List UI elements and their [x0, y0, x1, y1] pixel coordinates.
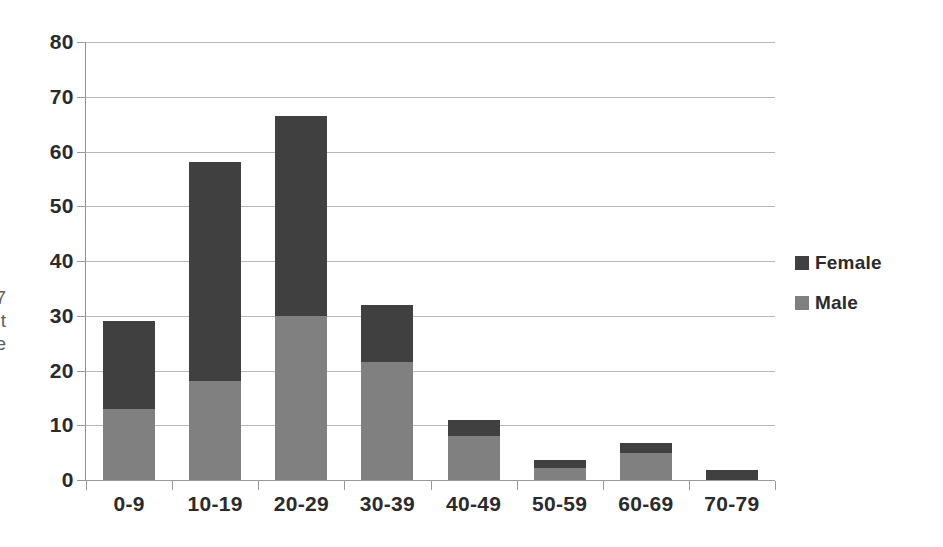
x-tick-label-20-29: 20-29 — [253, 492, 349, 516]
y-axis-tick-labels: 80706050403020100 — [0, 42, 74, 481]
y-tick-label-20: 20 — [14, 359, 74, 383]
bar-segment-male-10-19[interactable] — [189, 381, 241, 480]
y-tick-label-80: 80 — [14, 30, 74, 54]
chart-legend: FemaleMale — [795, 243, 935, 323]
legend-label-male: Male — [815, 292, 858, 314]
y-tick-label-0: 0 — [14, 468, 74, 492]
bar-segment-female-20-29[interactable] — [275, 116, 327, 316]
y-tick-mark-20 — [77, 371, 86, 372]
plot-area — [86, 42, 775, 480]
y-tick-mark-70 — [77, 97, 86, 98]
y-tick-mark-30 — [77, 316, 86, 317]
x-tick-label-0-9: 0-9 — [81, 492, 177, 516]
x-tick-mark-1 — [172, 481, 173, 490]
legend-item-male[interactable]: Male — [795, 283, 935, 323]
x-tick-mark-2 — [258, 481, 259, 490]
y-tick-label-70: 70 — [14, 85, 74, 109]
y-tick-mark-0 — [77, 480, 86, 481]
x-tick-label-70-79: 70-79 — [684, 492, 780, 516]
y-tick-mark-40 — [77, 261, 86, 262]
legend-item-female[interactable]: Female — [795, 243, 935, 283]
y-tick-label-30: 30 — [14, 304, 74, 328]
bar-segment-female-70-79[interactable] — [706, 470, 758, 480]
y-tick-label-40: 40 — [14, 249, 74, 273]
legend-swatch-male — [795, 296, 809, 310]
bar-segment-male-20-29[interactable] — [275, 316, 327, 480]
bar-segment-female-60-69[interactable] — [620, 443, 672, 452]
x-tick-label-60-69: 60-69 — [598, 492, 694, 516]
gridline-60 — [86, 152, 775, 153]
legend-swatch-female — [795, 256, 809, 270]
y-tick-mark-10 — [77, 425, 86, 426]
y-tick-mark-60 — [77, 152, 86, 153]
gridline-80 — [86, 42, 775, 43]
y-tick-mark-80 — [77, 42, 86, 43]
bar-segment-male-30-39[interactable] — [361, 362, 413, 480]
y-tick-label-60: 60 — [14, 140, 74, 164]
bar-segment-female-0-9[interactable] — [103, 321, 155, 409]
y-tick-label-50: 50 — [14, 194, 74, 218]
x-tick-mark-5 — [517, 481, 518, 490]
bar-segment-female-40-49[interactable] — [448, 420, 500, 436]
x-tick-label-30-39: 30-39 — [339, 492, 435, 516]
x-tick-mark-7 — [689, 481, 690, 490]
x-tick-mark-4 — [431, 481, 432, 490]
x-tick-mark-3 — [344, 481, 345, 490]
bar-segment-male-60-69[interactable] — [620, 453, 672, 480]
x-tick-mark-0 — [86, 481, 87, 490]
y-tick-label-10: 10 — [14, 413, 74, 437]
legend-label-female: Female — [815, 252, 882, 274]
x-tick-label-50-59: 50-59 — [512, 492, 608, 516]
chart-figure: 7 t e 80706050403020100 0-910-1920-2930-… — [0, 0, 943, 547]
x-tick-mark-8 — [775, 481, 776, 490]
bar-segment-male-0-9[interactable] — [103, 409, 155, 480]
x-tick-mark-6 — [603, 481, 604, 490]
x-tick-label-10-19: 10-19 — [167, 492, 263, 516]
x-tick-label-40-49: 40-49 — [426, 492, 522, 516]
x-axis-tick-labels: 0-910-1920-2930-3940-4950-5960-6970-79 — [86, 492, 775, 532]
y-tick-mark-50 — [77, 206, 86, 207]
bar-segment-male-50-59[interactable] — [534, 468, 586, 480]
bar-segment-female-30-39[interactable] — [361, 305, 413, 362]
bar-segment-female-50-59[interactable] — [534, 460, 586, 468]
bar-segment-male-40-49[interactable] — [448, 436, 500, 480]
bar-segment-female-10-19[interactable] — [189, 162, 241, 381]
gridline-70 — [86, 97, 775, 98]
